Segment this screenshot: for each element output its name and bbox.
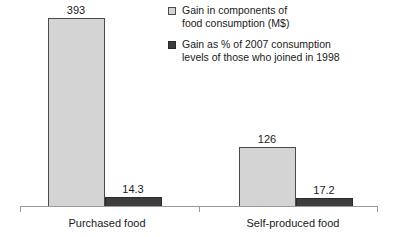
legend-label-gain-components-line2: food consumption (M$): [182, 17, 395, 30]
x-axis-tick-middle: [199, 207, 200, 212]
legend-entry-gain-components: Gain in components of food consumption (…: [167, 4, 395, 30]
value-label-self-produced-food-gain-components: 126: [237, 133, 297, 145]
category-label-self-produced-food: Self-produced food: [231, 217, 355, 230]
legend-label-gain-percent-line2: levels of those who joined in 1998: [182, 51, 395, 64]
light-square-swatch-icon: [168, 7, 176, 15]
bar-self-produced-food-gain-components: [239, 147, 296, 207]
legend-entry-gain-percent: Gain as % of 2007 consumption levels of …: [167, 38, 395, 64]
dark-square-swatch-icon: [168, 41, 176, 49]
x-axis-tick-right: [377, 207, 378, 212]
value-label-purchased-food-gain-percent: 14.3: [103, 183, 163, 195]
legend-label-gain-percent-line1: Gain as % of 2007 consumption: [182, 38, 395, 51]
bar-chart: 393 14.3 126 17.2 Purchased food Self-pr…: [0, 0, 398, 237]
value-label-self-produced-food-gain-percent: 17.2: [294, 184, 354, 196]
category-label-purchased-food: Purchased food: [50, 217, 164, 230]
chart-legend: Gain in components of food consumption (…: [167, 4, 395, 72]
legend-label-gain-components-line1: Gain in components of: [182, 4, 395, 17]
value-label-purchased-food-gain-components: 393: [46, 4, 106, 16]
x-axis-tick-left: [20, 207, 21, 212]
bar-purchased-food-gain-components: [48, 18, 105, 207]
